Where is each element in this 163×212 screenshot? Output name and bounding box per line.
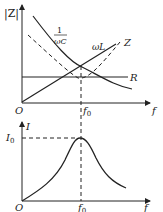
peak-current-label: I0 <box>5 132 14 145</box>
impedance-curve <box>28 35 120 78</box>
resonance-diagram: |Z| f O f0 1 ωC ωL Z R I I0 O f0 f <box>0 0 163 212</box>
inductive-line <box>22 44 116 102</box>
capacitive-label-denominator: ωC <box>54 37 67 46</box>
bottom-f0-label: f0 <box>77 202 86 212</box>
top-f0-label: f0 <box>82 105 91 118</box>
bottom-x-axis-label: f <box>143 202 150 212</box>
impedance-plot: |Z| f O f0 1 ωC ωL Z R <box>4 5 158 201</box>
resonance-curve <box>22 138 126 201</box>
impedance-label: Z <box>123 37 132 48</box>
bottom-y-axis-label: I <box>25 121 31 132</box>
top-origin-label: O <box>15 105 23 116</box>
top-y-axis-label: |Z| <box>4 7 19 21</box>
bottom-origin-label: O <box>15 202 23 212</box>
top-x-axis-label: f <box>151 105 158 116</box>
inductive-label: ωL <box>92 42 105 52</box>
capacitive-label-numerator: 1 <box>57 26 62 35</box>
resistance-label: R <box>129 72 138 83</box>
current-plot: I I0 O f0 f <box>5 121 150 212</box>
